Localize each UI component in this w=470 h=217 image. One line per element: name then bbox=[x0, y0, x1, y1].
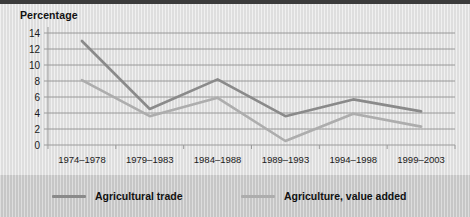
y-tick-label: 6 bbox=[14, 92, 40, 103]
gridlines-group bbox=[48, 33, 455, 129]
series-line-agricultural-trade bbox=[82, 41, 421, 116]
series-line-agriculture-value-added bbox=[82, 80, 421, 141]
legend-item-agriculture-value-added[interactable]: Agriculture, value added bbox=[241, 190, 407, 202]
x-tick-label: 1984–1988 bbox=[194, 154, 242, 165]
y-tick-label: 2 bbox=[14, 124, 40, 135]
y-tick-label: 0 bbox=[14, 140, 40, 151]
x-tick-label: 1999–2003 bbox=[397, 154, 445, 165]
x-tick-label: 1989–1993 bbox=[262, 154, 310, 165]
y-tick-label: 14 bbox=[14, 28, 40, 39]
y-tick-label: 12 bbox=[14, 44, 40, 55]
legend-label-agriculture-value-added: Agriculture, value added bbox=[284, 190, 407, 202]
x-tick-label: 1994–1998 bbox=[329, 154, 377, 165]
axes-group bbox=[44, 27, 455, 145]
legend-swatch-agriculture-value-added bbox=[241, 195, 275, 198]
series-lines-group bbox=[82, 41, 421, 141]
legend-swatch-agricultural-trade bbox=[52, 195, 86, 198]
x-tick-marks-group bbox=[48, 145, 455, 149]
x-tick-label: 1974–1978 bbox=[58, 154, 106, 165]
y-tick-label: 10 bbox=[14, 60, 40, 71]
y-tick-label: 4 bbox=[14, 108, 40, 119]
legend-item-agricultural-trade[interactable]: Agricultural trade bbox=[52, 190, 183, 202]
x-tick-label: 1979–1983 bbox=[126, 154, 174, 165]
legend-label-agricultural-trade: Agricultural trade bbox=[95, 190, 183, 202]
chart-figure: Percentage 02468101214 1974–19781979–198… bbox=[0, 0, 470, 217]
y-tick-label: 8 bbox=[14, 76, 40, 87]
chart-canvas bbox=[0, 0, 470, 217]
